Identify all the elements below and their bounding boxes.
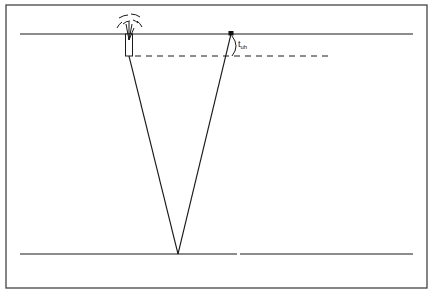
incident-raypath xyxy=(129,56,178,254)
seismic-raypath-diagram: tuh xyxy=(0,0,431,294)
uphole-time-label: tuh xyxy=(238,39,247,50)
uphole-time-arc xyxy=(232,36,236,56)
diagram-frame xyxy=(6,5,427,288)
geophone-icon xyxy=(229,31,234,36)
reflected-raypath xyxy=(178,34,231,254)
explosion-burst-icon xyxy=(117,14,142,40)
